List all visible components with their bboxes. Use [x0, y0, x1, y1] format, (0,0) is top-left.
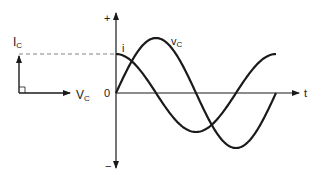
axis-minus-label: −: [105, 161, 111, 172]
voltage-phasor-label-sub: C: [84, 94, 90, 103]
waveform-axes: [116, 13, 299, 168]
current-phasor-label-sub: C: [16, 41, 22, 50]
current-curve-label: i: [122, 43, 124, 54]
current-phasor-label: IC: [13, 36, 22, 50]
voltage-phasor-label: VC: [76, 89, 90, 103]
origin-label: 0: [104, 88, 110, 99]
voltage-phasor-label-main: V: [76, 88, 84, 102]
time-axis-label: t: [304, 88, 307, 99]
capacitor-phasor-waveform-diagram: [0, 0, 316, 179]
voltage-curve-label-sub: C: [177, 40, 183, 49]
right-angle-marker: [19, 87, 25, 93]
voltage-curve-label: vC: [171, 36, 182, 49]
axis-plus-label: +: [104, 13, 110, 24]
phasor-diagram: [19, 54, 116, 93]
